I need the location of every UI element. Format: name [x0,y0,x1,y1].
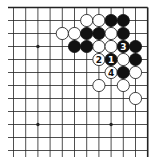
black-stone [81,40,93,52]
white-stone-2: 2 [93,53,105,65]
stone-disc [93,40,105,52]
black-stone [129,40,141,52]
white-stone [129,66,141,78]
stone-disc [56,27,68,39]
white-stone [68,27,80,39]
black-stone [81,27,93,39]
stone-disc [68,40,80,52]
stone-disc [117,14,129,26]
stone-disc [117,27,129,39]
stone-disc [117,79,129,91]
stone-disc [129,92,141,104]
stone-disc [129,40,141,52]
black-stone [117,66,129,78]
white-stone [117,79,129,91]
stone-disc [93,14,105,26]
stone-disc [105,14,117,26]
black-stone [105,14,117,26]
stone-disc [81,27,93,39]
white-stone-4: 4 [105,66,117,78]
black-stone [93,27,105,39]
black-stone [129,53,141,65]
move-number-label: 2 [96,55,102,65]
stone-disc [93,79,105,91]
stone-disc [68,27,80,39]
stone-disc [105,40,117,52]
stone-disc [81,40,93,52]
stone-disc [117,53,129,65]
hoshi-point [109,123,112,126]
move-number-label: 4 [108,68,114,78]
stone-disc [93,27,105,39]
black-stone-1: 1 [105,53,117,65]
white-stone [93,79,105,91]
white-stone [117,53,129,65]
white-stone [105,40,117,52]
black-stone [117,14,129,26]
black-stone-3: 3 [117,40,129,52]
stone-disc [117,66,129,78]
stone-disc [105,27,117,39]
stone-disc [129,53,141,65]
white-stone [56,27,68,39]
go-board: 3214 [0,0,158,167]
stone-disc [81,14,93,26]
white-stone [93,14,105,26]
go-board-svg: 3214 [0,0,158,167]
white-stone [105,27,117,39]
white-stone [93,40,105,52]
hoshi-point [36,45,39,48]
white-stone [129,92,141,104]
move-number-label: 1 [108,55,114,65]
black-stone [117,27,129,39]
black-stone [68,40,80,52]
stone-disc [129,66,141,78]
hoshi-point [36,123,39,126]
move-number-label: 3 [120,42,126,52]
white-stone [81,14,93,26]
